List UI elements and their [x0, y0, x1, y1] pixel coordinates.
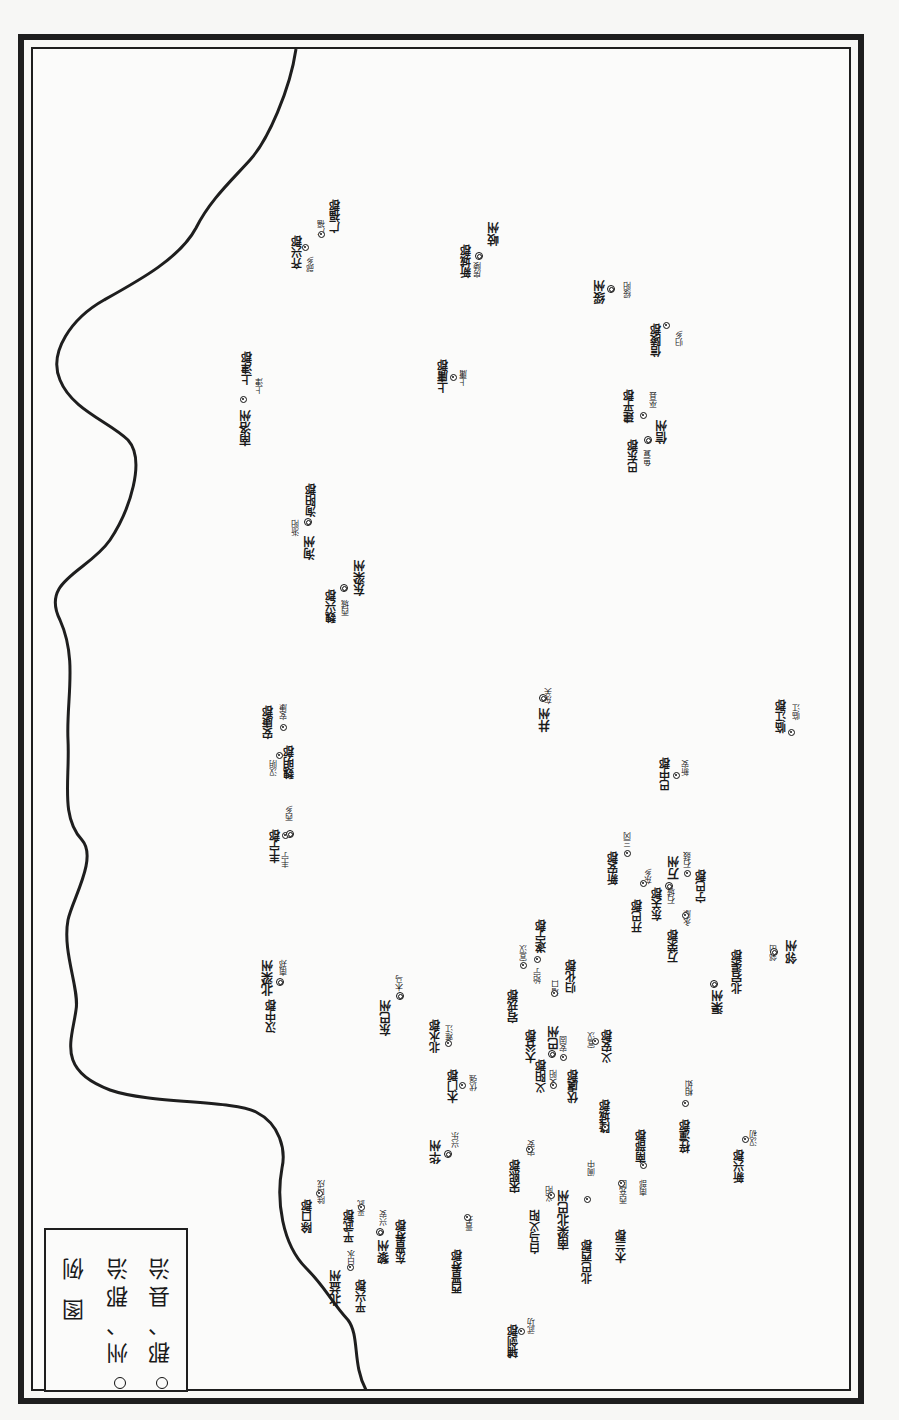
dot-circle-icon [450, 374, 457, 381]
dot-circle-icon [618, 1180, 625, 1187]
place-label-xian: 西城 [342, 600, 350, 616]
dot-circle-icon [742, 1136, 749, 1143]
place-label-jun: 东关郡 [652, 888, 663, 921]
place-label-jun: 信陵郡 [651, 324, 662, 357]
place-label-xian: 武功 [528, 1318, 536, 1334]
place-label-xian: 上津 [256, 378, 264, 394]
place-label-jun: 遂宁郡 [536, 920, 547, 953]
double-circle-icon [276, 978, 284, 986]
place-label-xian: 宣汉 [520, 945, 528, 961]
place-label-zhou: 井州 [539, 708, 551, 732]
place-label-xian: 始宁 [534, 968, 542, 984]
double-circle-icon [644, 436, 652, 444]
dot-circle-icon [560, 1054, 567, 1061]
place-label-zhou: 洵州 [304, 536, 316, 560]
dot-circle-icon [788, 729, 795, 736]
place-label-xian: 石鼓 [684, 852, 692, 868]
place-label-xian: 三冈 [624, 832, 632, 848]
double-circle-icon [770, 948, 778, 956]
dot-circle-icon [464, 1214, 471, 1221]
double-circle-icon [304, 518, 312, 526]
place-label-xian: 绥阳 [624, 282, 632, 298]
dot-circle-icon [358, 1204, 365, 1211]
dot-circle-icon [551, 990, 558, 997]
dot-circle-icon [602, 1124, 609, 1131]
place-label-xian: 相如 [686, 1080, 694, 1096]
place-label-jun: 梓潼郡 [680, 1120, 691, 1153]
place-label-xian: 上庸 [460, 370, 468, 386]
legend-title: 图 例 [60, 1252, 92, 1321]
dot-circle-icon [640, 880, 647, 887]
double-circle-icon [475, 252, 483, 260]
dot-circle-icon [684, 870, 691, 877]
place-label-zhou: 绥州 [594, 280, 606, 304]
dot-circle-icon [682, 912, 689, 919]
place-label-jun: 白马义阳 [530, 1210, 541, 1254]
place-label-jun: 临江郡 [776, 700, 787, 733]
place-label-jun: 丰宁郡 [270, 830, 281, 863]
place-label-jun: 魏兴郡 [326, 590, 337, 623]
double-circle-icon [710, 980, 718, 988]
double-circle-icon [665, 882, 673, 890]
double-circle-icon [114, 1377, 126, 1389]
dot-circle-icon [347, 1264, 354, 1271]
legend-item-zhou: 州、郡治 [104, 1252, 136, 1389]
place-label-jun: 归化郡 [566, 960, 577, 993]
place-label-jun: 北水郡 [430, 1020, 441, 1053]
place-label-xian: 丰宁 [282, 852, 290, 868]
place-label-xian: 木马 [396, 975, 404, 991]
place-label-jun: 新安郡 [608, 852, 619, 885]
dot-circle-icon [548, 1192, 555, 1199]
place-label-zhou: 信州 [656, 420, 668, 444]
place-label-jun: 东晋寿郡 [396, 1220, 407, 1264]
double-circle-icon [607, 285, 615, 293]
place-label-zhou: 北梁州 [262, 960, 274, 996]
dot-circle-icon [534, 956, 541, 963]
double-circle-icon [548, 1050, 556, 1058]
place-label-zhou: 渠州 [712, 990, 724, 1014]
place-label-xian: 临江 [793, 704, 801, 720]
dot-circle-icon [518, 1328, 525, 1335]
dot-circle-icon [624, 850, 631, 857]
place-label-xian: 南部 [640, 1180, 648, 1196]
place-label-xian: 南郑 [280, 960, 288, 976]
place-label-xian: 鱼复 [644, 450, 652, 466]
place-label-jun: 上津郡 [242, 352, 253, 385]
place-label-zhou: 东梁州 [354, 560, 366, 596]
place-label-zhou: 南梁北巴州 [558, 1190, 570, 1250]
place-label-zhou: 华州 [430, 1140, 442, 1164]
place-label-xian: 难江 [446, 1025, 454, 1041]
place-label-jun: 宁巴郡 [696, 870, 707, 903]
double-circle-icon [376, 1228, 384, 1236]
dot-circle-icon [316, 1190, 323, 1197]
dot-circle-icon [640, 412, 647, 419]
place-label-jun: 魏明郡 [284, 746, 295, 779]
dot-circle-icon [592, 1038, 599, 1045]
legend-label-jun: 郡、县治 [149, 1252, 174, 1364]
dot-circle-icon [550, 1082, 557, 1089]
place-label-xian: 房陵 [474, 262, 482, 278]
place-label-jun: 北巴西郡 [582, 1240, 593, 1284]
dot-circle-icon [318, 231, 325, 238]
dot-circle-icon [302, 244, 309, 251]
place-label-xian: 巫县 [650, 392, 658, 408]
place-label-xian: 石城 [668, 888, 676, 904]
place-label-jun: 平武郡 [344, 1210, 355, 1243]
place-label-xian: 新安 [682, 760, 690, 776]
place-label-jun: 广福郡 [330, 200, 341, 233]
place-label-xian: 郧乡 [307, 256, 315, 272]
place-label-jun: 建平郡 [624, 390, 635, 423]
place-label-xian: 兴安 [380, 1210, 388, 1226]
dot-circle-icon [584, 1196, 591, 1203]
place-label-xian: 汉初 [750, 1130, 758, 1146]
place-label-jun: 汉中郡 [266, 1000, 277, 1033]
dot-circle-icon [280, 724, 287, 731]
place-label-jun: 大谷郡 [526, 1030, 537, 1063]
dot-circle-icon [445, 1040, 452, 1047]
place-label-xian: 西乡 [286, 805, 294, 821]
place-label-jun: 木门郡 [448, 1070, 459, 1103]
double-circle-icon [286, 830, 294, 838]
place-label-zhou: 北益州 [330, 1270, 342, 1306]
place-label-zhou: 南洛州 [240, 410, 252, 446]
dot-circle-icon [156, 1377, 168, 1389]
